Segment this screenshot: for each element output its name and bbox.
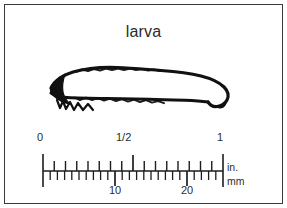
dual-scale-ruler: 0 1/2 1 — [27, 131, 267, 201]
inch-label-1: 1 — [217, 131, 223, 143]
larva-illustration — [41, 60, 233, 122]
inch-label-half: 1/2 — [116, 131, 131, 143]
figure-frame: larva 0 1/2 1 — [4, 4, 283, 204]
mm-label-10: 10 — [109, 184, 121, 196]
unit-label-millimeters: mm — [227, 175, 245, 187]
larva-icon — [41, 60, 233, 122]
page-title: larva — [5, 23, 282, 41]
inch-label-0: 0 — [37, 131, 43, 143]
larva-figure: larva 0 1/2 1 — [0, 0, 287, 208]
mm-label-20: 20 — [181, 184, 193, 196]
unit-label-inches: in. — [227, 161, 238, 173]
